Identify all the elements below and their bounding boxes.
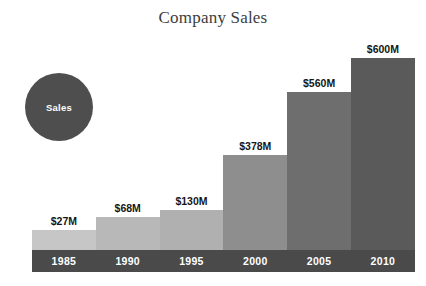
x-axis-band: 198519901995200020052010 bbox=[32, 250, 415, 272]
bar-value-label: $130M bbox=[160, 195, 224, 207]
x-axis-tick-2005: 2005 bbox=[287, 250, 351, 272]
bar-value-label: $378M bbox=[223, 140, 287, 152]
bar-2010[interactable] bbox=[351, 58, 415, 250]
x-axis-tick-2000: 2000 bbox=[223, 250, 287, 272]
bar-value-label: $68M bbox=[96, 202, 160, 214]
plot-area: $27M$68M$130M$378M$560M$600M bbox=[32, 40, 415, 250]
bar-2000[interactable] bbox=[223, 155, 287, 250]
bar-value-label: $600M bbox=[351, 43, 415, 55]
bar-1985[interactable] bbox=[32, 230, 96, 250]
bar-value-label: $27M bbox=[32, 215, 96, 227]
x-axis-tick-1995: 1995 bbox=[160, 250, 224, 272]
bar-1990[interactable] bbox=[96, 217, 160, 250]
bar-2005[interactable] bbox=[287, 92, 351, 250]
x-axis-tick-1985: 1985 bbox=[32, 250, 96, 272]
chart-title: Company Sales bbox=[0, 8, 426, 28]
x-axis-tick-2010: 2010 bbox=[351, 250, 415, 272]
bar-value-label: $560M bbox=[287, 77, 351, 89]
bar-1995[interactable] bbox=[160, 210, 224, 250]
x-axis-tick-1990: 1990 bbox=[96, 250, 160, 272]
company-sales-chart: Company Sales Sales $27M$68M$130M$378M$5… bbox=[0, 0, 426, 286]
